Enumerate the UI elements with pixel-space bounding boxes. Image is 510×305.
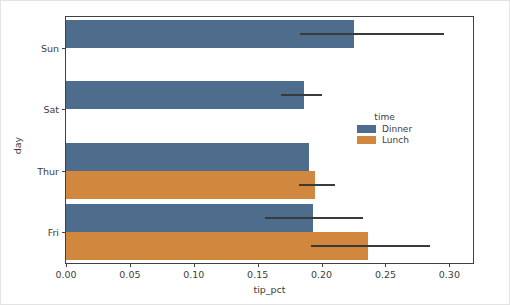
legend-title: time — [357, 112, 412, 122]
legend-label: Dinner — [382, 124, 412, 134]
legend-entries: DinnerLunch — [357, 124, 412, 145]
x-axis-tick — [194, 263, 195, 267]
x-axis-tick-label: 0.25 — [375, 269, 396, 280]
y-axis-tick — [62, 109, 66, 110]
x-axis-tick — [385, 263, 386, 267]
x-axis-tick — [258, 263, 259, 267]
x-axis-tick — [66, 263, 67, 267]
bar-sat-dinner — [66, 81, 304, 109]
x-axis-tick-label: 0.10 — [183, 269, 204, 280]
legend-item-dinner[interactable]: Dinner — [357, 124, 412, 134]
legend: time DinnerLunch — [350, 108, 419, 150]
x-axis-tick-label: 0.30 — [439, 269, 460, 280]
x-axis-tick — [322, 263, 323, 267]
legend-swatch-lunch-icon — [357, 136, 376, 144]
x-axis-tick-label: 0.15 — [247, 269, 268, 280]
y-axis-label: day — [12, 137, 23, 154]
legend-label: Lunch — [382, 135, 409, 145]
y-axis-tick-label: Thur — [37, 165, 59, 176]
figure: 0.000.050.100.150.200.250.30SunSatThurFr… — [0, 0, 510, 305]
error-bar-fri-dinner — [265, 217, 363, 219]
y-axis-tick — [62, 48, 66, 49]
x-axis-tick — [449, 263, 450, 267]
bar-thur-dinner — [66, 143, 309, 171]
y-axis-tick-label: Sat — [43, 104, 59, 115]
legend-swatch-dinner-icon — [357, 125, 376, 133]
y-axis-tick-label: Sun — [41, 42, 59, 53]
error-bar-fri-lunch — [311, 245, 430, 247]
x-axis-label: tip_pct — [65, 284, 474, 295]
error-bar-sun-dinner — [300, 33, 444, 35]
error-bar-sat-dinner — [281, 94, 323, 96]
x-axis-tick-label: 0.20 — [311, 269, 332, 280]
x-axis-tick-label: 0.05 — [119, 269, 140, 280]
legend-item-lunch[interactable]: Lunch — [357, 135, 412, 145]
y-axis-tick-label: Fri — [48, 227, 59, 238]
x-axis-tick-label: 0.00 — [55, 269, 76, 280]
x-axis-tick — [130, 263, 131, 267]
bar-thur-lunch — [66, 171, 315, 199]
error-bar-thur-lunch — [299, 184, 335, 186]
